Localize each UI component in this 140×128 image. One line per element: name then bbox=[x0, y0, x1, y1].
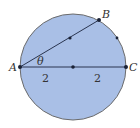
center-point bbox=[71, 65, 75, 69]
label-b: B bbox=[101, 8, 110, 21]
point-a bbox=[18, 65, 22, 69]
midpoint-ab bbox=[68, 36, 71, 39]
label-theta: θ bbox=[37, 55, 44, 68]
label-a: A bbox=[8, 61, 17, 74]
point-c bbox=[124, 65, 128, 69]
point-b bbox=[97, 18, 101, 22]
label-left-radius: 2 bbox=[42, 72, 49, 85]
arc-tick-mark bbox=[116, 37, 119, 40]
label-right-radius: 2 bbox=[94, 72, 101, 85]
circle-diagram: A B C θ 2 2 bbox=[0, 0, 140, 128]
label-c: C bbox=[129, 61, 138, 74]
